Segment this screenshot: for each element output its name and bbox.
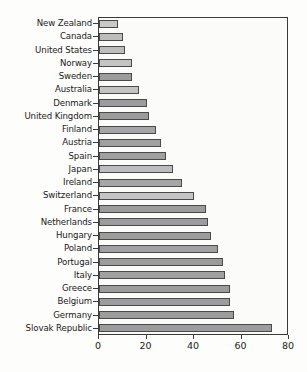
bar-row: United Kingdom <box>0 110 307 123</box>
bar <box>99 73 132 81</box>
bar-row: Belgium <box>0 295 307 308</box>
bar-row: Hungary <box>0 229 307 242</box>
x-axis-tick <box>146 335 147 339</box>
bar <box>99 165 173 173</box>
bar-row: Denmark <box>0 97 307 110</box>
x-axis: 020406080 <box>98 335 288 365</box>
y-axis-tick <box>93 63 98 64</box>
category-label: Netherlands <box>0 218 92 227</box>
bar <box>99 218 208 226</box>
y-axis-tick <box>93 315 98 316</box>
y-axis-tick <box>93 36 98 37</box>
category-label: Austria <box>0 138 92 147</box>
y-axis-tick <box>93 50 98 51</box>
category-label: Australia <box>0 85 92 94</box>
x-axis-tick <box>193 335 194 339</box>
y-axis-tick <box>93 262 98 263</box>
bar-row: Norway <box>0 57 307 70</box>
bar <box>99 139 161 147</box>
bar <box>99 271 225 279</box>
bar <box>99 179 182 187</box>
bar-chart: New ZealandCanadaUnited StatesNorwaySwed… <box>0 0 307 372</box>
y-axis-tick <box>93 328 98 329</box>
category-label: Finland <box>0 125 92 134</box>
y-axis-tick <box>93 182 98 183</box>
x-axis-tick-label: 60 <box>234 340 246 351</box>
y-axis-tick <box>93 209 98 210</box>
x-axis-tick-label: 20 <box>139 340 151 351</box>
y-axis-tick <box>93 89 98 90</box>
bar-row: Netherlands <box>0 216 307 229</box>
bar <box>99 232 211 240</box>
y-axis-tick <box>93 248 98 249</box>
y-axis-tick <box>93 76 98 77</box>
y-axis-tick <box>93 23 98 24</box>
bar <box>99 311 234 319</box>
category-label: Ireland <box>0 178 92 187</box>
bar-row: Greece <box>0 282 307 295</box>
y-axis-tick <box>93 195 98 196</box>
bar <box>99 59 132 67</box>
bar-row: United States <box>0 44 307 57</box>
category-label: Switzerland <box>0 191 92 200</box>
bar-row: Japan <box>0 163 307 176</box>
category-label: Canada <box>0 32 92 41</box>
bar <box>99 192 194 200</box>
y-axis-tick <box>93 301 98 302</box>
bar-row: Finland <box>0 123 307 136</box>
category-label: Portugal <box>0 258 92 267</box>
category-label: Germany <box>0 311 92 320</box>
x-axis-tick <box>241 335 242 339</box>
bar <box>99 324 272 332</box>
bar-row: Austria <box>0 136 307 149</box>
bar <box>99 298 230 306</box>
bar <box>99 46 125 54</box>
bar <box>99 152 166 160</box>
category-label: New Zealand <box>0 19 92 28</box>
y-axis-tick <box>93 288 98 289</box>
bar-row: France <box>0 203 307 216</box>
category-label: Slovak Republic <box>0 324 92 333</box>
y-axis-tick <box>93 275 98 276</box>
bar-row: Poland <box>0 242 307 255</box>
category-label: France <box>0 205 92 214</box>
category-label: United Kingdom <box>0 112 92 121</box>
y-axis-tick <box>93 235 98 236</box>
category-label: Norway <box>0 59 92 68</box>
bar <box>99 126 156 134</box>
bar <box>99 258 223 266</box>
y-axis-tick <box>93 222 98 223</box>
x-axis-tick-label: 80 <box>282 340 294 351</box>
y-axis-tick <box>93 156 98 157</box>
category-label: Belgium <box>0 297 92 306</box>
bar-row: Canada <box>0 30 307 43</box>
x-axis-tick-label: 40 <box>187 340 199 351</box>
category-label: Poland <box>0 244 92 253</box>
bar <box>99 99 147 107</box>
y-axis-tick <box>93 142 98 143</box>
bar-row: Portugal <box>0 256 307 269</box>
bar <box>99 285 230 293</box>
category-label: Greece <box>0 284 92 293</box>
bar <box>99 245 218 253</box>
bar <box>99 205 206 213</box>
category-label: Italy <box>0 271 92 280</box>
x-axis-tick-label: 0 <box>95 340 101 351</box>
y-axis-tick <box>93 116 98 117</box>
bar <box>99 112 149 120</box>
y-axis-tick <box>93 103 98 104</box>
category-label: Denmark <box>0 99 92 108</box>
category-label: Sweden <box>0 72 92 81</box>
bar-row: Switzerland <box>0 189 307 202</box>
bar <box>99 86 139 94</box>
bar-row: Italy <box>0 269 307 282</box>
bar-row: Germany <box>0 309 307 322</box>
category-label: United States <box>0 46 92 55</box>
category-label: Hungary <box>0 231 92 240</box>
bar-row: Slovak Republic <box>0 322 307 335</box>
category-label: Spain <box>0 152 92 161</box>
bar <box>99 33 123 41</box>
bar-rows: New ZealandCanadaUnited StatesNorwaySwed… <box>0 17 307 335</box>
y-axis-tick <box>93 129 98 130</box>
category-label: Japan <box>0 165 92 174</box>
